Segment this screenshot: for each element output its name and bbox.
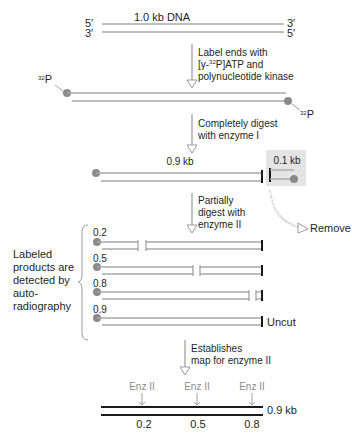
fragment-0-1kb-label: 0.1 kb — [273, 155, 301, 166]
product-0-2: 0.2 — [93, 227, 262, 251]
arrow-text-line1: Partially — [198, 195, 234, 206]
enzyme-site-label: Enz II — [184, 381, 210, 392]
label-pointer — [55, 85, 63, 91]
product-size: 0.8 — [93, 278, 107, 289]
side-label-line2: products are — [13, 261, 74, 273]
map-position: 0.5 — [190, 418, 205, 430]
arrow-text-line1: Label ends with — [198, 47, 268, 58]
arrow-text-line3: polynucleotide kinase — [198, 71, 294, 82]
step-arrow-label-ends: Label ends with [γ-32P]ATP and polynucle… — [187, 44, 294, 88]
curly-brace — [78, 225, 88, 340]
restriction-mapping-diagram: 1.0 kb DNA 5′ 3′ 3′ 5′ Label ends with [… — [0, 0, 352, 437]
three-prime-bottom-left: 3′ — [85, 27, 93, 39]
enzyme-site-label: Enz II — [129, 381, 155, 392]
step-arrow-partial-digest: Partially digest with enzyme II — [187, 193, 245, 233]
label-dot — [290, 175, 298, 183]
side-label-line4: auto- — [13, 287, 38, 299]
uncut-label: Uncut — [267, 316, 296, 328]
map-position: 0.8 — [244, 418, 259, 430]
product-size: 0.9 — [93, 304, 107, 315]
step-arrow-digest-enzyme-i: Completely digest with enzyme I — [187, 114, 278, 153]
restriction-map: Enz II Enz II Enz II 0.9 kb 0.2 0.5 0.8 — [101, 381, 297, 430]
remove-label: Remove — [310, 222, 351, 234]
dna-title: 1.0 kb DNA — [134, 11, 191, 23]
side-label-line5: radiography — [13, 300, 72, 312]
intact-dna: 1.0 kb DNA 5′ 3′ 3′ 5′ — [85, 11, 295, 39]
down-arrow-icon — [187, 225, 197, 233]
product-0-8: 0.8 — [93, 278, 262, 301]
step-arrow-establish-map: Establishes map for enzyme II — [180, 340, 271, 375]
label-dot-right — [284, 97, 292, 105]
autoradiography-label: Labeled products are detected by auto- r… — [13, 225, 88, 340]
product-0-5: 0.5 — [93, 253, 262, 276]
down-arrow-icon — [180, 367, 190, 375]
product-0-9-uncut: 0.9 Uncut — [93, 304, 296, 328]
fragment-0-9kb-label: 0.9 kb — [166, 156, 194, 167]
five-prime-bottom-right: 5′ — [287, 27, 295, 39]
side-label-line3: detected by — [13, 274, 70, 286]
product-size: 0.2 — [93, 227, 107, 238]
arrow-text-line3: enzyme II — [198, 219, 241, 230]
label-pointer — [292, 104, 300, 110]
arrow-text-line2: map for enzyme II — [191, 355, 271, 366]
enzyme-site-label: Enz II — [239, 381, 265, 392]
down-arrow-icon — [187, 145, 197, 153]
arrow-text-line1: Completely digest — [198, 118, 278, 129]
arrow-text-line1: Establishes — [191, 343, 242, 354]
arrow-text-line2: [γ-32P]ATP and — [198, 59, 263, 70]
map-position: 0.2 — [136, 418, 151, 430]
product-size: 0.5 — [93, 253, 107, 264]
p32-label-right: 32P — [300, 108, 314, 120]
map-length-label: 0.9 kb — [267, 404, 297, 416]
side-label-line1: Labeled — [13, 248, 52, 260]
arrow-text-line2: with enzyme I — [197, 130, 259, 141]
p32-label-left: 32P — [38, 73, 52, 85]
arrow-text-line2: digest with — [198, 207, 245, 218]
remove-arrow-icon — [298, 223, 308, 233]
down-arrow-icon — [187, 80, 197, 88]
